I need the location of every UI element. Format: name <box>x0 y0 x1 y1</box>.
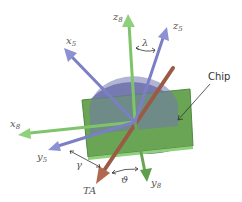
label-ta: TA <box>83 185 96 196</box>
label-chip: Chip <box>208 71 230 82</box>
label-x8: x8 <box>10 118 21 131</box>
label-y8: y8 <box>150 177 162 190</box>
label-y5: y5 <box>36 151 48 164</box>
coordinate-system-diagram: z8 z5 x5 x8 y5 y8 TA λ γ ϑ Chip <box>0 0 242 202</box>
label-lambda: λ <box>141 37 148 48</box>
label-gamma: γ <box>76 159 82 170</box>
label-z8: z8 <box>112 11 123 24</box>
angle-theta-arrow <box>112 167 138 174</box>
label-z5: z5 <box>172 20 183 33</box>
label-x5: x5 <box>66 35 77 48</box>
label-theta: ϑ <box>121 174 128 185</box>
